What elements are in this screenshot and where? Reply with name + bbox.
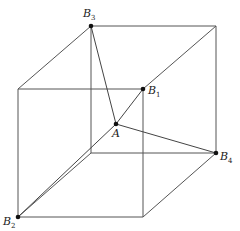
segment-a-b1 [116, 89, 143, 124]
labels: A B 1 B 2 B 3 B 4 [2, 7, 233, 230]
label-b3-subscript: 3 [91, 14, 95, 22]
point-b3 [89, 24, 94, 29]
point-b4 [214, 151, 219, 156]
segment-a-b4 [116, 124, 216, 153]
label-a: A [111, 127, 120, 140]
label-b3: B [82, 7, 91, 20]
label-b4: B [219, 150, 228, 163]
label-b1-subscript: 1 [156, 91, 160, 99]
label-b4-subscript: 4 [228, 157, 233, 165]
point-b1 [141, 87, 146, 92]
segments-from-a [18, 26, 216, 217]
point-b2 [16, 215, 21, 220]
cube-diagram: A B 1 B 2 B 3 B 4 [0, 0, 240, 231]
label-b1: B [147, 84, 156, 97]
segment-a-b2 [18, 124, 116, 217]
segment-a-b3 [91, 26, 116, 124]
label-b2-subscript: 2 [11, 222, 15, 230]
label-b2: B [2, 215, 11, 228]
point-a [114, 122, 119, 127]
